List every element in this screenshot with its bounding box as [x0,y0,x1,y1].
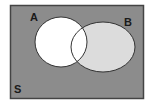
set-a-circle [35,17,87,67]
set-b-label: B [124,16,132,28]
set-a-label: A [30,11,38,23]
universe-label-s: S [14,83,21,95]
venn-diagram: A B S [0,0,149,105]
venn-svg: A B S [0,0,149,105]
